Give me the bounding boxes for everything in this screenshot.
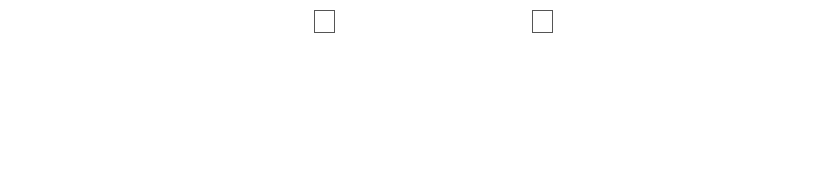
rehearsal-mark-c (314, 10, 335, 33)
rehearsal-mark-d (532, 10, 553, 33)
music-staff (0, 0, 818, 184)
